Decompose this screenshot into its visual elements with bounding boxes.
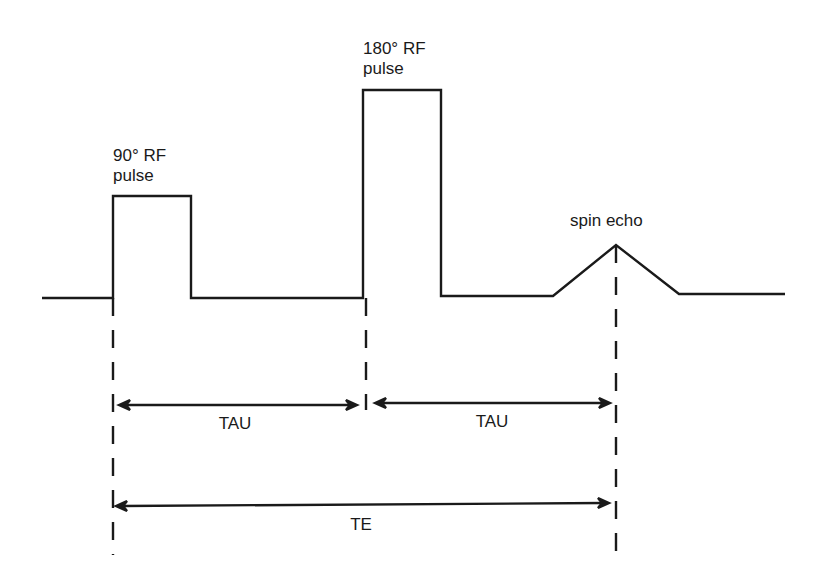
tau1-label: TAU xyxy=(219,414,252,434)
tau2-label: TAU xyxy=(476,412,509,432)
pulse90-label-line2: pulse xyxy=(113,166,154,186)
spin-echo-label: spin echo xyxy=(570,211,643,231)
te-arrow xyxy=(122,503,603,506)
te-label: TE xyxy=(350,515,372,535)
pulse90-label-line1: 90° RF xyxy=(113,146,166,166)
pulse180-label-line2: pulse xyxy=(363,59,404,79)
diagram-graphics xyxy=(0,0,825,571)
signal-waveform xyxy=(42,90,785,298)
spin-echo-diagram: 90° RF pulse 180° RF pulse spin echo TAU… xyxy=(0,0,825,571)
pulse180-label-line1: 180° RF xyxy=(363,39,426,59)
